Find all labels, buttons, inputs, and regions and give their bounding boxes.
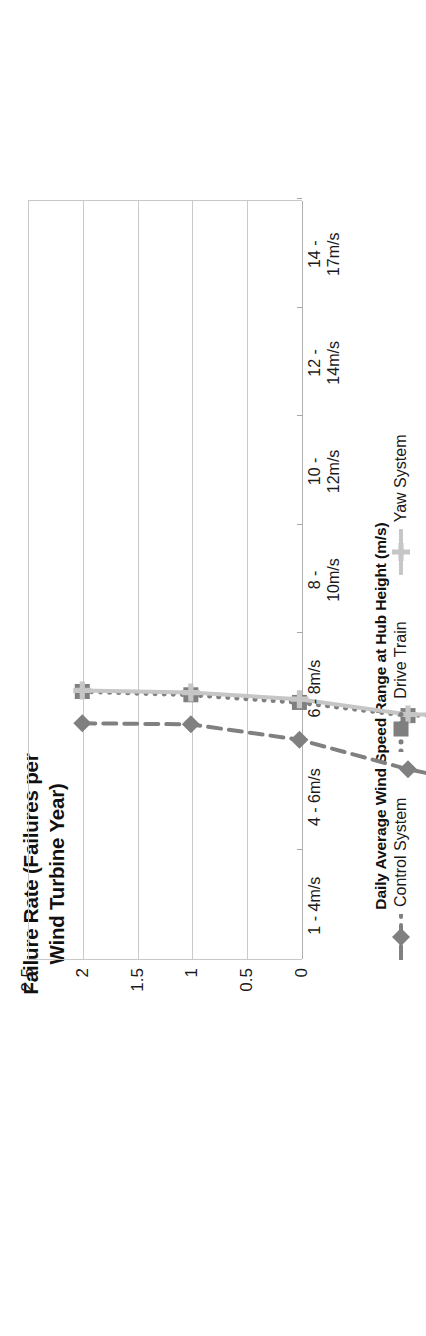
series-layer bbox=[28, 200, 302, 960]
legend-label: Drive Train bbox=[392, 621, 410, 698]
category-tick-label: 12 -14m/s bbox=[306, 317, 344, 409]
data-point-marker bbox=[73, 714, 91, 732]
plot-area bbox=[28, 200, 302, 960]
legend-label: Control System bbox=[392, 798, 410, 907]
category-tick-label-line: 10 - bbox=[306, 425, 325, 517]
value-tick-label: 1.5 bbox=[128, 968, 148, 1028]
category-tick-label-line: 14m/s bbox=[325, 317, 344, 409]
value-tick-label: 0 bbox=[292, 968, 312, 1028]
category-tick-label-line: 12m/s bbox=[325, 425, 344, 517]
legend-label: Yaw System bbox=[392, 435, 410, 523]
category-axis-tick-labels: 1 - 4m/s4 - 6m/s6 - 8m/s8 -10m/s10 -12m/… bbox=[302, 200, 372, 960]
data-point-marker bbox=[392, 543, 410, 561]
category-tick-label-line: 10m/s bbox=[325, 534, 344, 626]
category-tick-label-line: 8 - bbox=[306, 534, 325, 626]
category-tick-label-line: 6 - 8m/s bbox=[306, 643, 325, 735]
value-tick-label: 2.5 bbox=[18, 968, 38, 1028]
chart-legend: Control SystemDrive TrainYaw System bbox=[390, 200, 412, 960]
category-tick-label-line: 1 - 4m/s bbox=[306, 860, 325, 952]
category-tick-label-line: 17m/s bbox=[325, 208, 344, 300]
data-point-marker bbox=[182, 715, 200, 733]
category-tick-label: 6 - 8m/s bbox=[306, 643, 325, 735]
legend-item-drive-train[interactable]: Drive Train bbox=[390, 621, 412, 751]
chart-figure: Failure Rate (Failures per Wind Turbine … bbox=[0, 0, 426, 1336]
legend-item-control-system[interactable]: Control System bbox=[390, 798, 412, 960]
value-tick-label: 1 bbox=[182, 968, 202, 1028]
data-point-marker bbox=[394, 721, 409, 736]
value-tick-label: 0.5 bbox=[237, 968, 257, 1028]
category-tick-label: 10 -12m/s bbox=[306, 425, 344, 517]
legend-item-yaw-system[interactable]: Yaw System bbox=[390, 435, 412, 576]
data-point-marker bbox=[392, 928, 410, 946]
category-tick-label: 8 -10m/s bbox=[306, 534, 344, 626]
category-tick-label: 1 - 4m/s bbox=[306, 860, 325, 952]
category-tick-label: 14 -17m/s bbox=[306, 208, 344, 300]
legend-swatch-plus-icon bbox=[390, 529, 412, 575]
category-axis-title: Daily Average Wind Speed Range at Hub He… bbox=[372, 396, 390, 1036]
category-tick-label-line: 4 - 6m/s bbox=[306, 751, 325, 843]
value-tick-label: 2 bbox=[73, 968, 93, 1028]
category-tick bbox=[297, 198, 302, 199]
category-tick-label: 4 - 6m/s bbox=[306, 751, 325, 843]
legend-swatch-square-icon bbox=[390, 706, 412, 752]
legend-swatch-diamond-icon bbox=[390, 914, 412, 960]
category-tick-label-line: 14 - bbox=[306, 208, 325, 300]
category-tick-label-line: 12 - bbox=[306, 317, 325, 409]
